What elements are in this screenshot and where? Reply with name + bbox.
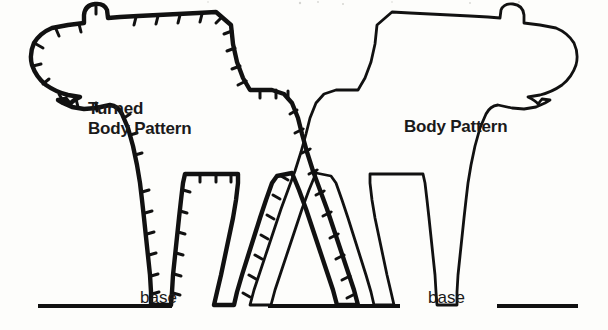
pattern-artwork bbox=[0, 0, 608, 330]
label-turned-line1: Turned bbox=[88, 99, 191, 119]
pattern-diagram: Turned Body Pattern Body Pattern base ba… bbox=[0, 0, 608, 330]
figure-body-pattern bbox=[250, 4, 577, 305]
scan-speckles bbox=[207, 1, 520, 5]
turned-body-outline bbox=[31, 4, 358, 305]
figure-turned-body-pattern bbox=[31, 4, 358, 306]
label-turned-body-pattern: Turned Body Pattern bbox=[88, 99, 191, 139]
label-body-pattern: Body Pattern bbox=[404, 117, 507, 137]
label-base-right: base bbox=[428, 288, 465, 308]
label-base-left: base bbox=[140, 288, 177, 308]
body-outline bbox=[250, 4, 577, 305]
label-turned-line2: Body Pattern bbox=[88, 119, 191, 139]
turned-body-seam-ticks bbox=[33, 6, 355, 298]
